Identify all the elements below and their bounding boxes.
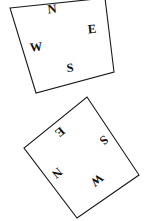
bottom-square-outline — [24, 97, 139, 218]
top-square-outline — [10, 0, 114, 93]
figure-canvas: NEWSESNW — [0, 0, 149, 221]
compass-squares-figure: NEWSESNW — [0, 0, 149, 221]
direction-label-north: N — [47, 2, 57, 17]
upper-compass-square: NEWS — [10, 0, 114, 93]
direction-label-east: E — [87, 22, 97, 37]
direction-label-west: W — [29, 39, 43, 54]
lower-compass-square: ESNW — [24, 97, 139, 218]
